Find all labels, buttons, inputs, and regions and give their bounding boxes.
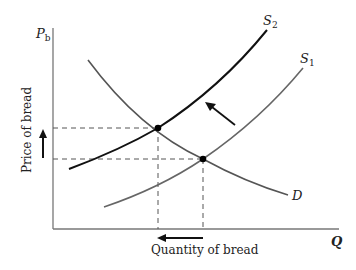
curve-label-s1: S1 (300, 51, 315, 68)
equilibrium-point-e1 (200, 156, 207, 163)
equilibrium-point-e2 (155, 125, 162, 132)
price-up-arrow-icon (39, 129, 47, 158)
x-axis-label: Quantity of bread (151, 243, 259, 257)
curve-label-d: D (291, 188, 303, 203)
x-axis-symbol: Q (331, 234, 343, 249)
y-axis-label: Price of bread (20, 87, 34, 173)
supply-shift-arrow-icon (205, 102, 235, 125)
diagram-canvas: Pb Price of bread Quantity of bread Q S2… (0, 0, 356, 270)
supply-curve-s2 (69, 30, 267, 169)
supply-demand-diagram: Pb Price of bread Quantity of bread Q S2… (0, 0, 356, 270)
y-axis-symbol: Pb (35, 26, 51, 43)
quantity-left-arrow-icon (157, 234, 203, 242)
curve-label-s2: S2 (263, 13, 278, 30)
